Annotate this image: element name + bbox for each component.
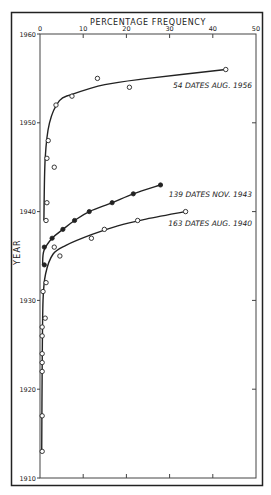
annotation-54-dates: 54 DATES AUG. 1956: [173, 81, 252, 90]
y-tick-label: 1950: [19, 119, 36, 127]
filled-point: [72, 218, 76, 222]
open-point: [45, 201, 49, 205]
open-point: [40, 334, 44, 338]
x-tick-label: 50: [252, 25, 260, 33]
y-tick-label: 1940: [19, 208, 36, 216]
open-point: [54, 103, 58, 107]
open-point: [40, 414, 44, 418]
open-point: [70, 94, 74, 98]
filled-point: [131, 192, 135, 196]
open-point: [183, 209, 187, 213]
x-tick-label: 10: [79, 25, 87, 33]
open-point: [127, 85, 131, 89]
x-tick-label: 30: [165, 25, 173, 33]
filled-point: [110, 201, 114, 205]
fit-curve-2: [42, 212, 186, 452]
filled-point: [50, 236, 54, 240]
filled-point: [42, 263, 46, 267]
y-tick-label: 1910: [19, 475, 36, 483]
open-point: [45, 156, 49, 160]
frequency-chart: PERCENTAGE FREQUENCY YEAR 01020304050 19…: [0, 0, 271, 495]
y-axis-label: YEAR: [13, 239, 22, 266]
annotation-139-dates: 139 DATES NOV. 1943: [169, 190, 252, 199]
x-ticks: 01020304050: [38, 25, 260, 478]
open-point: [44, 218, 48, 222]
open-point: [89, 236, 93, 240]
open-point: [102, 227, 106, 231]
data-points: [40, 67, 228, 453]
open-point: [58, 254, 62, 258]
open-point: [40, 449, 44, 453]
filled-point: [42, 245, 46, 249]
fit-curve-1: [43, 185, 161, 265]
open-point: [40, 325, 44, 329]
y-tick-label: 1920: [19, 386, 36, 394]
x-tick-label: 20: [122, 25, 130, 33]
open-point: [95, 76, 99, 80]
open-point: [43, 316, 47, 320]
y-tick-label: 1930: [19, 297, 36, 305]
filled-point: [87, 210, 91, 214]
plot-area: [40, 34, 256, 478]
open-point: [224, 67, 228, 71]
y-ticks: 191019201930194019501960: [19, 31, 256, 483]
x-tick-label: 40: [209, 25, 217, 33]
x-axis-label: PERCENTAGE FREQUENCY: [90, 18, 206, 27]
open-point: [40, 351, 44, 355]
open-point: [52, 245, 56, 249]
open-point: [44, 280, 48, 284]
annotation-163-dates: 163 DATES AUG. 1940: [168, 219, 252, 228]
open-point: [46, 138, 50, 142]
open-point: [52, 165, 56, 169]
y-tick-label: 1960: [19, 31, 36, 39]
filled-point: [61, 227, 65, 231]
x-tick-label: 0: [38, 25, 42, 33]
filled-point: [158, 183, 162, 187]
open-point: [40, 360, 44, 364]
fit-curves: [42, 70, 226, 452]
open-point: [135, 218, 139, 222]
open-point: [40, 369, 44, 373]
open-point: [41, 289, 45, 293]
